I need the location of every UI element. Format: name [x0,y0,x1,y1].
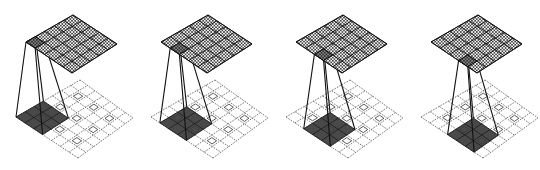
input-pixel [359,126,368,132]
input-grid-line [348,118,403,158]
input-pixel [105,115,114,121]
input-grid [286,80,403,158]
projection-line [448,61,459,135]
projection-line [160,48,170,123]
input-pixel [477,115,486,121]
input-grid-line [215,80,268,118]
input-pixel [494,104,503,110]
input-pixel [342,115,351,121]
panel-1 [16,15,133,158]
input-grid-line [213,118,268,158]
input-pixel [224,104,233,110]
input-grid-line [80,80,133,118]
input-pixel [73,93,82,99]
input-grid-line [78,118,133,158]
output-grid [161,15,252,73]
panel-2 [151,15,268,158]
panel-3 [286,15,403,158]
panel-4 [421,15,538,158]
input-pixel [461,104,471,110]
output-area [431,15,522,73]
output-grid [296,15,387,73]
input-pixel [308,115,318,121]
input-pixel [443,115,453,121]
input-pixel [240,115,249,121]
output-grid [431,15,522,73]
input-pixel [207,138,216,144]
input-pixel [72,115,81,121]
input-pixel [342,138,351,144]
input-pixel [375,115,384,121]
projection-line [16,42,26,117]
input-pixel [359,104,368,110]
input-grid-line [286,80,350,117]
input-pixel [510,115,519,121]
input-grid-line [62,91,118,130]
input-grid-line [485,80,538,118]
panels-group [16,15,538,158]
input-pixel [72,138,81,144]
input-pixel [55,126,65,132]
input-grid-line [60,107,118,146]
input-pixel [89,104,98,110]
diagram-canvas [0,0,540,170]
input-grid-line [350,80,403,118]
input-pixel [224,126,233,132]
input-pixel [191,104,201,110]
input-pixel [208,93,217,99]
transposed-convolution-figure: Transposed convolution (fractionally str… [0,0,540,170]
output-grid [26,15,117,73]
input-pixel [207,115,216,121]
output-area [296,15,387,73]
output-area [161,15,252,73]
input-pixel [89,126,98,132]
input-pixel [494,126,503,132]
